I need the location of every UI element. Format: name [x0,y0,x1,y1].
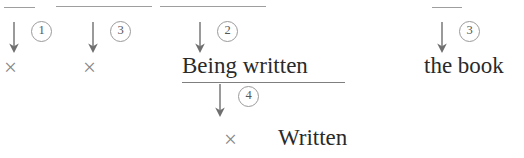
step-marker-3: 2 [217,21,238,42]
step-marker-2: 3 [110,21,131,42]
arrow-column-1 [6,22,22,54]
deletion-mark-lower: × [224,128,237,151]
deletion-mark-column-2: × [83,56,96,79]
rule-segment-4 [432,7,462,8]
arrow-column-2 [85,22,101,54]
step-marker-4: 3 [459,21,480,42]
rule-segment-1 [4,7,35,8]
phrase-being-written: Being written [182,54,308,77]
derivation-diagram: y g 1 × 3 × 2 Being written 3 the book [0,0,524,158]
rule-segment-2 [56,6,152,7]
arrow-column-4 [434,22,450,54]
phrase-written: Written [278,126,347,149]
step-marker-1: 1 [31,21,52,42]
step-marker-lower: 4 [238,86,259,107]
arrow-column-3 [192,22,208,54]
underline-being-written [182,82,345,83]
arrow-lower-branch [212,84,228,118]
rule-segment-3 [160,6,266,7]
deletion-mark-column-1: × [4,56,17,79]
phrase-the-book: the book [424,54,504,77]
